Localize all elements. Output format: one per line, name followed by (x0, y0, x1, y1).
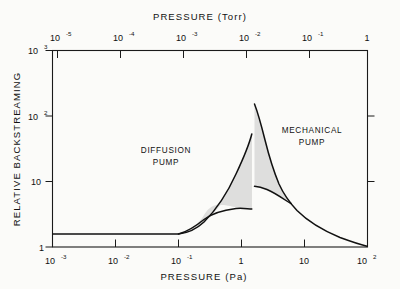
top-tick-exp-1: -4 (129, 30, 135, 37)
right-axis-ticks (368, 116, 375, 182)
bottom-axis-ticks (53, 240, 368, 248)
bottom-tick-exp-0: -3 (61, 253, 67, 260)
diffusion-pump-lower-curve (179, 208, 252, 234)
bottom-tick-label-3: 1 (238, 256, 243, 266)
diffusion-pump-label-line-0: DIFFUSION (141, 146, 191, 155)
top-tick-label-4: 10 (302, 33, 312, 43)
top-tick-labels: 10 -5 10 -4 10 -3 10 -2 10 -1 1 (50, 30, 370, 43)
bottom-tick-labels: 10 -3 10 -2 10 -1 1 10 10 2 (45, 253, 377, 266)
top-tick-exp-2: -3 (192, 30, 198, 37)
bottom-tick-label-2: 10 (171, 256, 181, 266)
bottom-tick-label-4: 10 (299, 256, 309, 266)
mechanical-pump-label-line-1: PUMP (299, 138, 325, 147)
top-axis-ticks (58, 51, 310, 59)
top-tick-label-1: 10 (113, 33, 123, 43)
y-tick-label-2: 10 (31, 177, 41, 187)
y-tick-label-0: 10 (28, 46, 38, 56)
y-tick-exp-0: 3 (44, 43, 48, 50)
backstreaming-vs-pressure-chart: PRESSURE (Torr) 10 -5 10 -4 10 -3 10 -2 … (0, 0, 400, 289)
mechanical-pump-label: MECHANICAL PUMP (282, 126, 343, 147)
top-tick-label-3: 10 (239, 33, 249, 43)
top-tick-label-5: 1 (364, 33, 369, 43)
y-tick-label-1: 10 (28, 112, 38, 122)
top-tick-exp-0: -5 (66, 30, 72, 37)
top-axis-title: PRESSURE (Torr) (153, 11, 247, 22)
y-tick-exp-1: 2 (44, 109, 48, 116)
plot-frame (53, 51, 368, 248)
bottom-tick-exp-5: 2 (373, 253, 377, 260)
bottom-tick-label-5: 10 (357, 256, 367, 266)
top-tick-label-2: 10 (176, 33, 186, 43)
y-axis-title: RELATIVE BACKSTREAMING (11, 72, 22, 226)
bottom-tick-label-0: 10 (45, 256, 55, 266)
top-tick-exp-4: -1 (318, 30, 324, 37)
bottom-tick-label-1: 10 (108, 256, 118, 266)
mechanical-pump-label-line-0: MECHANICAL (282, 126, 343, 135)
diffusion-pump-label-line-1: PUMP (153, 158, 179, 167)
bottom-tick-exp-1: -2 (124, 253, 130, 260)
bottom-tick-exp-2: -1 (187, 253, 193, 260)
left-axis-ticks (46, 51, 53, 248)
diffusion-pump-label: DIFFUSION PUMP (141, 146, 191, 167)
top-tick-exp-3: -2 (255, 30, 261, 37)
top-tick-label-0: 10 (50, 33, 60, 43)
bottom-axis-title: PRESSURE (Pa) (160, 271, 247, 282)
y-tick-labels: 10 3 10 2 10 1 (28, 43, 48, 253)
figure-container: PRESSURE (Torr) 10 -5 10 -4 10 -3 10 -2 … (0, 0, 400, 289)
y-tick-label-3: 1 (39, 243, 44, 253)
